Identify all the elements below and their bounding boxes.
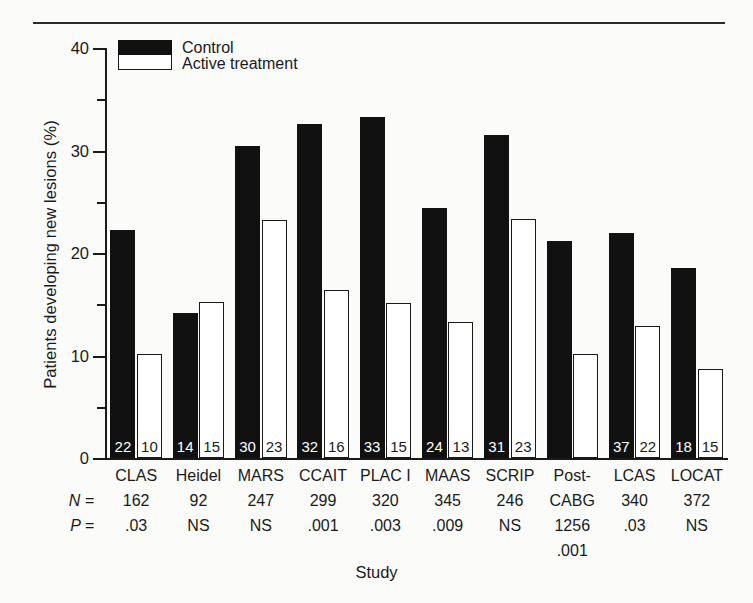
bar-control-heidel: 14: [173, 313, 198, 458]
bar-groups: 221014153023321633152413312337221815: [105, 48, 728, 458]
bar-value-label: 37: [610, 439, 633, 454]
bar-group-locat: 1815: [671, 48, 723, 458]
table-row-p-overflow: .001: [105, 538, 728, 563]
bar-value-label: 24: [423, 439, 446, 454]
table-row-headers: N = P =: [20, 463, 102, 538]
n-value-label: 340: [603, 488, 665, 513]
bar-active-treatment-heidel: 15: [199, 302, 224, 458]
table-row-p: .03NSNS.001.003.009NS1256.03NS: [105, 513, 728, 538]
bar-active-treatment-plac-i: 15: [386, 303, 411, 458]
bar-value-label: 30: [236, 439, 259, 454]
table-row-n: 16292247299320345246CABG340372: [105, 488, 728, 513]
n-value-label: 246: [479, 488, 541, 513]
y-tick-major-40: [93, 48, 105, 50]
bar-active-treatment-lcas: 22: [635, 326, 660, 458]
bar-group-heidel: 1415: [173, 48, 225, 458]
bar-value-label: 15: [387, 439, 410, 454]
n-value-label: 162: [105, 488, 167, 513]
row-header-n-label: N =: [69, 488, 94, 513]
bar-control-mars: 30: [235, 146, 260, 458]
bar-group-plac-i: 3315: [360, 48, 412, 458]
bar-value-label: 14: [174, 439, 197, 454]
study-annotation-table: CLASHeidelMARSCCAITPLAC IMAASSCRIPPost-L…: [105, 463, 728, 563]
y-tick-major-20: [93, 253, 105, 255]
y-tick-label-10: 10: [49, 348, 89, 365]
bar-value-label: 33: [361, 439, 384, 454]
figure-bar-chart: Patients developing new lesions (%) 0102…: [0, 0, 753, 603]
p-value-label: .001: [541, 538, 603, 563]
bar-value-label: 22: [111, 439, 134, 454]
bar-active-treatment-clas: 10: [137, 354, 162, 458]
y-tick-major-30: [93, 151, 105, 153]
study-name-label-line2: CABG: [541, 488, 603, 513]
bar-active-treatment-locat: 15: [698, 369, 723, 458]
n-value-label: 1256: [541, 513, 603, 538]
y-tick-major-10: [93, 356, 105, 358]
bar-value-label: 18: [672, 439, 695, 454]
bar-group-clas: 2210: [110, 48, 162, 458]
n-value-label: 320: [354, 488, 416, 513]
bar-control-scrip: 31: [484, 135, 509, 458]
p-value-label: NS: [230, 513, 292, 538]
y-tick-minor-5: [97, 407, 105, 409]
bar-value-label: 15: [200, 439, 223, 454]
study-name-label: CCAIT: [292, 463, 354, 488]
p-value-label: NS: [666, 513, 728, 538]
row-header-p-label: P =: [70, 513, 94, 538]
p-value-label: NS: [167, 513, 229, 538]
bar-value-label: 15: [699, 439, 722, 454]
p-value-label: .03: [105, 513, 167, 538]
bar-active-treatment-mars: 23: [262, 220, 287, 458]
study-name-label: Post-: [541, 463, 603, 488]
bar-control-clas: 22: [110, 230, 135, 458]
study-name-label: SCRIP: [479, 463, 541, 488]
y-tick-major-0: [93, 458, 105, 460]
y-tick-label-20: 20: [49, 245, 89, 262]
y-tick-minor-25: [97, 202, 105, 204]
bar-active-treatment-maas: 13: [448, 322, 473, 458]
study-name-label: CLAS: [105, 463, 167, 488]
n-value-label: 372: [666, 488, 728, 513]
bar-control-locat: 18: [671, 268, 696, 458]
y-tick-minor-15: [97, 304, 105, 306]
bar-control-maas: 24: [422, 208, 447, 458]
bar-value-label: 23: [512, 439, 535, 454]
top-divider-rule: [33, 22, 725, 24]
bar-value-label: 23: [263, 439, 286, 454]
n-value-label: 247: [230, 488, 292, 513]
bar-control-ccait: 32: [297, 124, 322, 458]
bar-value-label: 32: [298, 439, 321, 454]
study-name-label: MARS: [230, 463, 292, 488]
p-value-label: .001: [292, 513, 354, 538]
bar-value-label: 31: [485, 439, 508, 454]
bar-group-mars: 3023: [235, 48, 287, 458]
bar-group-ccait: 3216: [297, 48, 349, 458]
bar-control-post-cabg: [547, 241, 572, 458]
p-value-label: .009: [417, 513, 479, 538]
p-value-label: .03: [603, 513, 665, 538]
x-axis-line: [105, 458, 728, 460]
p-value-label: .003: [354, 513, 416, 538]
study-name-label: LOCAT: [666, 463, 728, 488]
bar-group-maas: 2413: [422, 48, 474, 458]
bar-group-scrip: 3123: [484, 48, 536, 458]
y-tick-label-40: 40: [49, 40, 89, 57]
y-tick-label-30: 30: [49, 143, 89, 160]
table-row-study-name: CLASHeidelMARSCCAITPLAC IMAASSCRIPPost-L…: [105, 463, 728, 488]
bar-value-label: 13: [449, 439, 472, 454]
study-name-label: PLAC I: [354, 463, 416, 488]
bar-value-label: 22: [636, 439, 659, 454]
bar-group-lcas: 3722: [609, 48, 661, 458]
bar-value-label: 10: [138, 439, 161, 454]
row-header-p: P =: [20, 513, 102, 538]
bar-control-plac-i: 33: [360, 117, 385, 458]
bar-control-lcas: 37: [609, 233, 634, 459]
p-value-label: NS: [479, 513, 541, 538]
x-axis-title: Study: [0, 563, 753, 582]
bar-value-label: 16: [325, 439, 348, 454]
bar-active-treatment-post-cabg: [573, 354, 598, 458]
y-tick-minor-35: [97, 99, 105, 101]
row-header-n: N =: [20, 488, 102, 513]
study-name-label: LCAS: [603, 463, 665, 488]
study-name-label: MAAS: [417, 463, 479, 488]
